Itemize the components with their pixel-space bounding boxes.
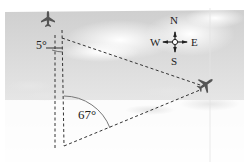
compass-north-label: N: [170, 15, 178, 26]
diagram-canvas: 5° 67° N S W E: [0, 0, 244, 162]
compass-west-label: W: [150, 37, 160, 48]
bottom-angle-label: 67°: [78, 108, 96, 121]
top-angle-label: 5°: [36, 39, 47, 51]
compass-east-label: E: [191, 37, 198, 48]
diagram-svg: [0, 0, 244, 162]
compass-south-label: S: [171, 56, 177, 67]
